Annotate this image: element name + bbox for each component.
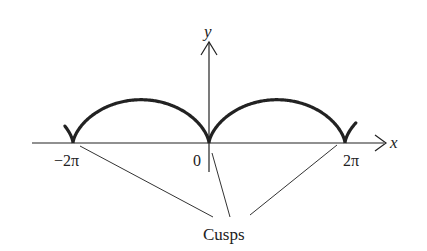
cycloid-diagram: y x −2π 0 2π Cusps (0, 0, 427, 251)
cycloid-curve (65, 100, 356, 143)
tick-label-two-pi: 2π (343, 152, 359, 169)
y-axis-label: y (202, 22, 212, 41)
x-axis-label: x (389, 133, 398, 152)
tick-label-zero: 0 (193, 152, 201, 169)
y-axis (201, 42, 217, 172)
tick-label-neg-two-pi: −2π (54, 152, 79, 169)
cusps-annotation: Cusps (203, 225, 245, 244)
